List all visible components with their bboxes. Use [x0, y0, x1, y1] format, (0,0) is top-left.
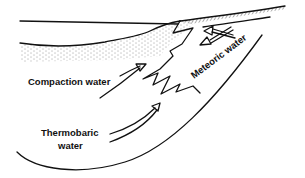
thermobaric-arrow — [110, 103, 160, 142]
label-thermobaric-line1: Thermobaric — [41, 127, 99, 138]
basin-water-diagram: Compaction water Meteoric water Thermoba… — [0, 0, 305, 178]
land-surface-line — [180, 6, 285, 21]
sea-level-line — [20, 21, 178, 24]
label-thermobaric-line2: water — [57, 140, 83, 151]
label-compaction-water: Compaction water — [28, 76, 111, 87]
